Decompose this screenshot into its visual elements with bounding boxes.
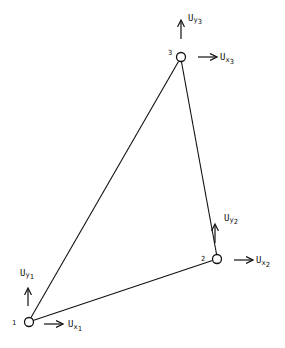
node-3: 3 Ux3 Uy3 [168,13,234,66]
uy-label: Uy2 [224,213,238,226]
node-circle [177,53,186,62]
node-circle [213,255,222,264]
node-1: 1 Ux1 Uy1 [12,268,82,333]
uy-label: Uy1 [20,268,34,281]
edge-1-2 [33,261,213,321]
element-edges [31,62,217,321]
ux-label: Ux1 [68,319,82,333]
ux-label: Ux2 [256,255,270,269]
ux-label: Ux3 [220,52,234,66]
edge-2-3 [182,62,217,254]
node-label: 1 [12,319,16,327]
triangle-element-diagram: 1 Ux1 Uy1 2 Ux2 Uy2 3 Ux3 Uy3 [0,0,285,348]
uy-label: Uy3 [188,13,202,26]
node-circle [25,318,34,327]
node-label: 3 [168,49,172,57]
node-label: 2 [201,255,205,263]
